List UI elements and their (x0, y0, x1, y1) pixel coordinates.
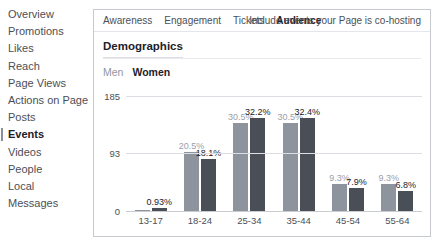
x-tick-label: 25-34 (225, 215, 274, 226)
tab-engagement[interactable]: Engagement (164, 15, 221, 26)
gridline-93: 93 (126, 153, 422, 154)
section-divider (103, 58, 421, 59)
sidebar-item-local[interactable]: Local (0, 178, 88, 195)
sidebar-item-overview[interactable]: Overview (0, 6, 88, 23)
bar-value-label: 0.93% (146, 197, 172, 207)
tab-awareness[interactable]: Awareness (103, 15, 152, 26)
x-tick-label: 45-54 (323, 215, 372, 226)
x-axis-line (126, 211, 422, 212)
sidebar-item-actions-on-page[interactable]: Actions on Page (0, 92, 88, 109)
bar-value-label: 7.9% (346, 177, 367, 187)
y-tick-label: 185 (104, 91, 120, 102)
bar-rect (201, 159, 216, 211)
section-title-demographics: Demographics (103, 40, 183, 58)
bar-rect (250, 118, 265, 211)
legend-toggle-women[interactable]: Women (132, 66, 170, 78)
bar-rect (233, 123, 248, 211)
y-tick-label: 93 (109, 148, 120, 159)
bar-rect (349, 188, 364, 211)
bar-rect (283, 123, 298, 211)
gridline-185: 185 (126, 96, 422, 97)
bar-value-label: 6.8% (396, 180, 417, 190)
y-tick-label: 0 (115, 206, 120, 217)
x-tick-label: 18-24 (175, 215, 224, 226)
bar-rect (300, 118, 315, 211)
gender-legend: MenWomen (103, 66, 430, 78)
sidebar-item-messages[interactable]: Messages (0, 195, 88, 212)
audience-panel: AwarenessEngagementTicketsAudience Inclu… (93, 9, 431, 237)
sidebar-item-promotions[interactable]: Promotions (0, 23, 88, 40)
chart-plot-area: 0.93%20.5%18.1%30.5%32.2%30.5%32.4%9.3%7… (126, 96, 422, 211)
x-tick-label: 13-17 (126, 215, 175, 226)
cohost-note: Include events your Page is co-hosting (249, 15, 421, 26)
screenshot-root: OverviewPromotionsLikesReachPage ViewsAc… (0, 0, 435, 252)
sidebar-item-page-views[interactable]: Page Views (0, 75, 88, 92)
sidebar-item-people[interactable]: People (0, 161, 88, 178)
bar-rect (184, 152, 199, 211)
sidebar-item-likes[interactable]: Likes (0, 40, 88, 57)
sidebar-item-reach[interactable]: Reach (0, 58, 88, 75)
sidebar-item-videos[interactable]: Videos (0, 144, 88, 161)
x-tick-label: 35-44 (274, 215, 323, 226)
legend-toggle-men[interactable]: Men (103, 66, 123, 78)
bar-value-label: 32.4% (294, 107, 320, 117)
x-tick-label: 55-64 (373, 215, 422, 226)
bar-rect (398, 191, 413, 211)
x-axis-labels: 13-1718-2425-3435-4445-5455-64 (126, 215, 422, 226)
bar-value-label: 32.2% (245, 107, 271, 117)
bar-rect (381, 184, 396, 211)
panel-tabs: AwarenessEngagementTicketsAudience Inclu… (94, 10, 430, 32)
sidebar-item-events[interactable]: Events (0, 126, 88, 143)
bar-rect (332, 184, 347, 211)
demographics-bar-chart: 0.93%20.5%18.1%30.5%32.2%30.5%32.4%9.3%7… (94, 82, 432, 238)
sidebar: OverviewPromotionsLikesReachPage ViewsAc… (0, 6, 88, 212)
sidebar-item-posts[interactable]: Posts (0, 109, 88, 126)
